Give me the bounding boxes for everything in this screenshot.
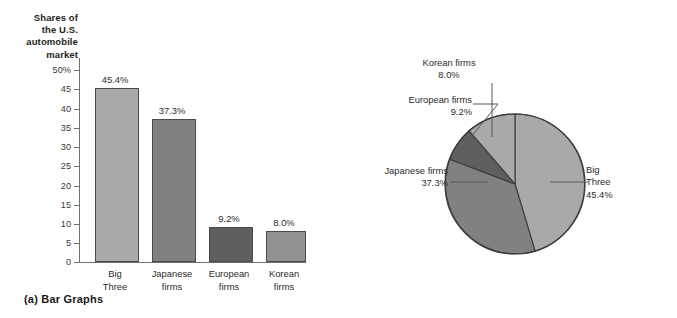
pie-label-big-three-name: Big: [586, 164, 656, 176]
figure-two-panel-charts: Shares of the U.S. automobile market 50%…: [0, 0, 677, 318]
caption-panel-a: (a) Bar Graphs: [24, 293, 103, 305]
pie-label-japanese-pct: 37.3%: [338, 177, 448, 189]
y-tick-label-20: 20: [38, 181, 71, 191]
pie-label-european-firms: European firms 9.2%: [368, 94, 472, 119]
pie-label-japanese-name: Japanese firms: [338, 165, 448, 177]
bar-japanese-firms[interactable]: [152, 119, 196, 262]
bar-value-big-three: 45.4%: [75, 74, 155, 85]
bar-european-firms[interactable]: [209, 227, 253, 262]
bar-plot-area: [79, 70, 299, 262]
y-tick-label-15: 15: [38, 200, 71, 210]
bar-value-korean-firms: 8.0%: [244, 217, 324, 228]
x-category-korean-line2: firms: [244, 281, 324, 294]
pie-label-big-three-pct: 45.4%: [586, 189, 656, 201]
y-tick-label-35: 35: [38, 123, 71, 133]
y-axis-title-line-1: Shares of: [6, 12, 78, 24]
y-tick-label-40: 40: [38, 104, 71, 114]
y-axis-title-line-4: market: [6, 49, 78, 61]
pie-plot-area: Korean firms 8.0% European firms 9.2% Ja…: [340, 0, 677, 318]
x-category-label-korean-firms: Korean firms: [244, 268, 324, 293]
bar-korean-firms[interactable]: [266, 231, 306, 262]
pie-label-european-pct: 9.2%: [368, 106, 472, 118]
y-tick-mark-0: [74, 262, 79, 263]
pie-label-japanese-firms: Japanese firms 37.3%: [338, 165, 448, 190]
x-axis-line: [79, 262, 306, 263]
pie-label-big-three: Big Three 45.4%: [586, 164, 656, 201]
pie-label-european-name: European firms: [368, 94, 472, 106]
y-tick-label-45: 45: [38, 84, 71, 94]
y-axis-title-line-3: automobile: [6, 36, 78, 48]
y-axis-title-line-2: the U.S.: [6, 24, 78, 36]
y-tick-label-25: 25: [38, 161, 71, 171]
pie-label-korean-firms: Korean firms 8.0%: [404, 57, 494, 82]
pie-label-korean-name: Korean firms: [404, 57, 494, 69]
y-tick-label-0: 0: [38, 257, 71, 267]
panel-pie-chart: Korean firms 8.0% European firms 9.2% Ja…: [340, 0, 677, 318]
bar-value-japanese-firms: 37.3%: [132, 105, 212, 116]
pie-svg: [340, 0, 677, 290]
y-axis-title: Shares of the U.S. automobile market: [6, 12, 78, 61]
y-tick-label-10: 10: [38, 219, 71, 229]
panel-bar-graph: Shares of the U.S. automobile market 50%…: [0, 0, 340, 318]
y-tick-label-30: 30: [38, 142, 71, 152]
y-tick-label-50: 50%: [38, 65, 71, 75]
x-category-korean-line1: Korean: [244, 268, 324, 281]
y-tick-label-5: 5: [38, 238, 71, 248]
pie-label-korean-pct: 8.0%: [404, 69, 494, 81]
pie-label-big-three-name2: Three: [586, 176, 656, 188]
